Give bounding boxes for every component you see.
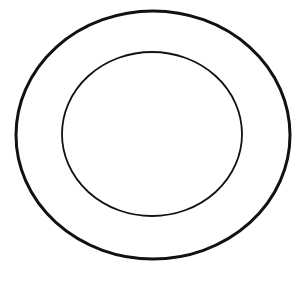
- outer-ellipse: [16, 11, 290, 259]
- inner-ellipse: [62, 52, 242, 216]
- concentric-ellipses-diagram: [0, 0, 306, 286]
